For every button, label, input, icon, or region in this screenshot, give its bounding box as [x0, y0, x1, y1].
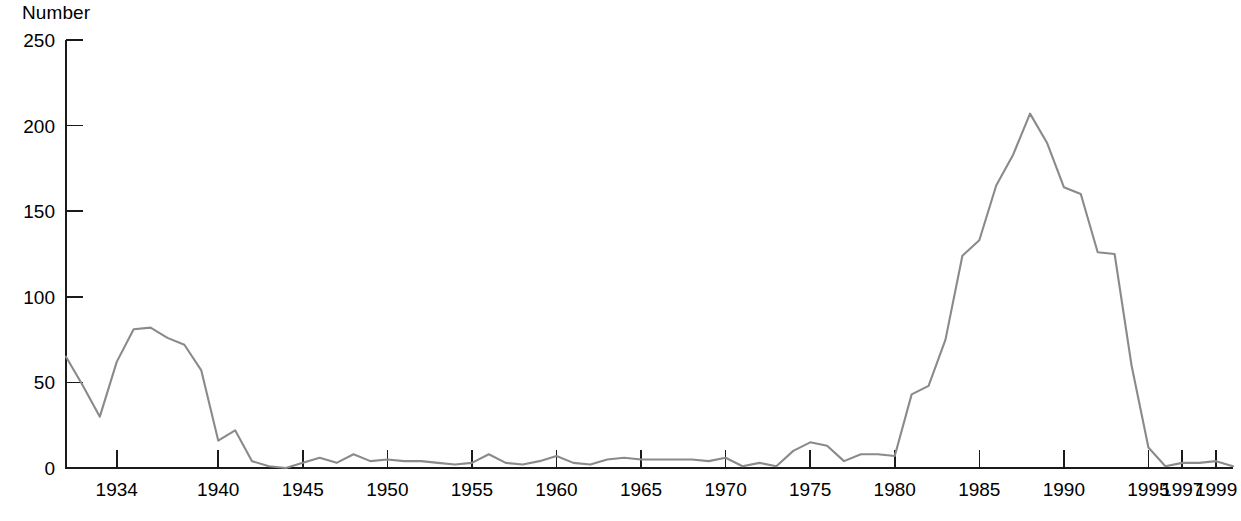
x-tick-label: 1960: [535, 479, 577, 500]
y-tick-label: 200: [23, 116, 55, 137]
axis-frame: [66, 40, 1233, 468]
x-tick-label: 1940: [197, 479, 239, 500]
line-chart-plot: 050100150200250 193419401945195019551960…: [0, 0, 1241, 521]
x-tick-label: 1945: [282, 479, 324, 500]
y-tick-label: 250: [23, 30, 55, 51]
x-tick-label: 1950: [366, 479, 408, 500]
x-axis-ticks: 1934194019451950195519601965197019751980…: [96, 450, 1238, 500]
x-tick-label: 1965: [620, 479, 662, 500]
x-tick-label: 1985: [958, 479, 1000, 500]
x-tick-label: 1980: [874, 479, 916, 500]
x-tick-label: 1970: [704, 479, 746, 500]
x-tick-label: 1999: [1195, 479, 1237, 500]
x-tick-label: 1990: [1043, 479, 1085, 500]
y-tick-label: 150: [23, 201, 55, 222]
y-tick-label: 50: [34, 372, 55, 393]
y-tick-label: 100: [23, 287, 55, 308]
x-tick-label: 1975: [789, 479, 831, 500]
data-series-line: [66, 114, 1233, 468]
y-axis-ticks: 050100150200250: [23, 30, 83, 479]
chart-container: Number 050100150200250 19341940194519501…: [0, 0, 1241, 521]
x-tick-label: 1934: [96, 479, 139, 500]
x-tick-label: 1955: [451, 479, 493, 500]
y-tick-label: 0: [44, 458, 55, 479]
